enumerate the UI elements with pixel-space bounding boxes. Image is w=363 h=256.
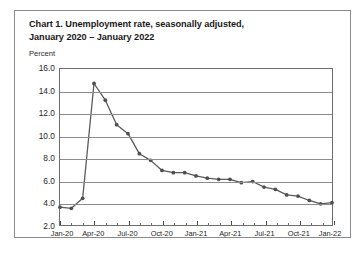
x-axis-tick-major (300, 221, 301, 225)
series-markers (58, 82, 334, 211)
x-axis-tick-minor (83, 223, 84, 225)
x-axis-tick-minor (311, 223, 312, 225)
data-point (137, 152, 141, 156)
x-axis-tick-label: Jan-22 (319, 229, 342, 238)
data-point (217, 177, 221, 181)
y-axis-tick-labels: 2.04.06.08.010.012.014.016.0 (19, 68, 55, 226)
x-axis-tick-minor (243, 223, 244, 225)
data-point (205, 176, 209, 180)
data-point (296, 194, 300, 198)
x-axis-tick-minor (288, 223, 289, 225)
x-axis-tick-label: Jan-20 (51, 229, 74, 238)
x-axis-tick-label: Oct-20 (151, 229, 173, 238)
gridline-y-12.0 (60, 114, 332, 115)
x-axis-tick-minor (140, 223, 141, 225)
y-axis-tick-label: 14.0 (21, 86, 55, 96)
x-axis-tick-label: Apr-20 (82, 229, 104, 238)
data-point (307, 199, 311, 203)
x-axis-tick-minor (186, 223, 187, 225)
data-point (228, 177, 232, 181)
x-axis-tick-minor (220, 223, 221, 225)
chart-title-line-2: January 2020 – January 2022 (29, 31, 339, 44)
x-axis-tick-minor (323, 223, 324, 225)
series-line (60, 83, 332, 208)
data-point (160, 169, 164, 173)
data-point (194, 174, 198, 178)
y-axis-tick-label: 10.0 (21, 131, 55, 141)
x-axis-tick-labels: Jan-20Apr-20Jul-20Oct-20Jan-21Apr-21Jul-… (59, 229, 333, 238)
x-axis-tick-label: Jul-20 (117, 229, 137, 238)
x-axis-tick-label: Apr-21 (219, 229, 241, 238)
gridline-y-10.0 (60, 137, 332, 138)
y-axis-tick-label: 8.0 (21, 153, 55, 163)
x-axis-tick-major (60, 221, 61, 225)
data-point (92, 82, 96, 86)
data-point (115, 123, 119, 127)
y-axis-tick-label: 12.0 (21, 108, 55, 118)
chart-title: Chart 1. Unemployment rate, seasonally a… (29, 18, 339, 43)
x-axis-tick-label: Jan-21 (185, 229, 208, 238)
x-axis-tick-minor (117, 223, 118, 225)
x-axis-tick-major (163, 221, 164, 225)
y-axis-tick-label: 16.0 (21, 63, 55, 73)
y-axis-tick-label: 4.0 (21, 198, 55, 208)
gridline-y-6.0 (60, 182, 332, 183)
x-axis-tick-minor (174, 223, 175, 225)
gridline-y-14.0 (60, 92, 332, 93)
data-point (183, 171, 187, 175)
gridline-y-8.0 (60, 159, 332, 160)
x-axis-tick-label: Oct-21 (288, 229, 310, 238)
data-point (126, 132, 130, 136)
x-axis-tick-minor (277, 223, 278, 225)
data-point (285, 193, 289, 197)
x-axis-tick-minor (106, 223, 107, 225)
data-point (103, 98, 107, 102)
gridline-y-4.0 (60, 204, 332, 205)
x-axis-tick-major (334, 221, 335, 225)
x-axis-tick-minor (254, 223, 255, 225)
x-axis-tick-minor (151, 223, 152, 225)
chart-figure: Chart 1. Unemployment rate, seasonally a… (14, 10, 351, 238)
chart-title-line-1: Chart 1. Unemployment rate, seasonally a… (29, 18, 339, 31)
data-point (81, 196, 85, 200)
x-axis-tick-minor (208, 223, 209, 225)
data-point (69, 206, 73, 210)
data-point (171, 171, 175, 175)
y-axis-unit-label: Percent (29, 49, 55, 58)
plot-area (59, 68, 333, 226)
data-point (262, 185, 266, 189)
x-axis-tick-minor (71, 223, 72, 225)
y-axis-tick-label: 6.0 (21, 176, 55, 186)
x-axis-tick-major (94, 221, 95, 225)
x-axis-tick-major (231, 221, 232, 225)
data-point (58, 205, 62, 209)
x-axis-tick-major (129, 221, 130, 225)
x-axis-tick-label: Jul-21 (254, 229, 274, 238)
x-axis-tick-major (197, 221, 198, 225)
data-point (273, 187, 277, 191)
x-axis-tick-major (266, 221, 267, 225)
